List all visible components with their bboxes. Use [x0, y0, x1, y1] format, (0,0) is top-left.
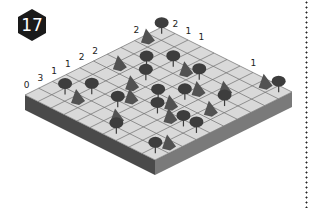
column-clue: 1: [186, 26, 192, 36]
isometric-board[interactable]: 03112222111: [0, 0, 309, 208]
row-clue: 0: [24, 80, 30, 90]
tree-icon: [140, 51, 154, 62]
tree-icon: [218, 90, 232, 101]
tree-icon: [109, 117, 123, 128]
tree-icon: [111, 91, 125, 102]
tree-icon: [85, 78, 99, 89]
tree-icon: [189, 116, 203, 127]
tree-icon: [178, 83, 192, 94]
row-clue: 2: [92, 46, 98, 56]
puzzle-stage: 17 03112222111: [0, 0, 309, 208]
row-clue: 3: [38, 73, 44, 83]
row-clue: 1: [65, 59, 71, 69]
row-clue: 1: [51, 66, 57, 76]
row-clue: 2: [79, 52, 85, 62]
tree-icon: [166, 50, 180, 61]
tree-icon: [150, 97, 164, 108]
perforation-edge: [305, 0, 308, 208]
tree-icon: [155, 17, 169, 28]
tree-icon: [148, 137, 162, 148]
tree-icon: [272, 76, 286, 87]
tree-icon: [151, 84, 165, 95]
column-clue: 1: [251, 58, 257, 68]
tree-icon: [192, 63, 206, 74]
column-clue: 1: [199, 32, 205, 42]
tree-icon: [176, 110, 190, 121]
row-clue: 2: [133, 25, 139, 35]
column-clue: 2: [173, 19, 179, 29]
tree-icon: [139, 64, 153, 75]
tree-icon: [58, 78, 72, 89]
